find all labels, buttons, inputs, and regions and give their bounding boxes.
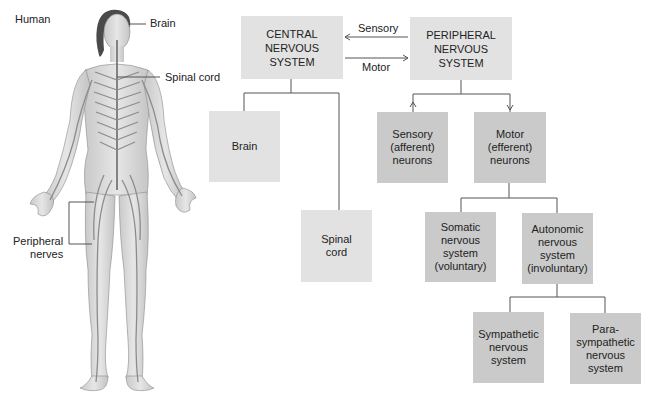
pns-line2: NERVOUS — [426, 42, 496, 56]
sympathetic-line3: system — [478, 354, 539, 367]
pns-line1: PERIPHERAL — [426, 28, 496, 42]
pns-line3: SYSTEM — [426, 56, 496, 70]
somatic-line1: Somatic — [435, 221, 487, 234]
sympathetic-line1: Sympathetic — [478, 328, 539, 341]
autonomic-nervous-system-box: Autonomic nervous system (involuntary) — [522, 213, 593, 284]
spinal-line2: cord — [321, 246, 352, 259]
cns-line1: CENTRAL — [265, 27, 319, 41]
parasympathetic-line2: sympathetic — [576, 336, 635, 349]
peripheral-nervous-system-box: PERIPHERAL NERVOUS SYSTEM — [410, 17, 512, 80]
cns-line3: SYSTEM — [265, 55, 319, 69]
sensory-line3: neurons — [390, 154, 434, 167]
somatic-line4: (voluntary) — [435, 260, 487, 273]
brain-box: Brain — [209, 111, 280, 182]
autonomic-line4: (involuntary) — [527, 262, 588, 275]
autonomic-line3: system — [527, 249, 588, 262]
somatic-line2: nervous — [435, 234, 487, 247]
motor-efferent-neurons-box: Motor (efferent) neurons — [474, 112, 546, 183]
autonomic-line2: nervous — [527, 236, 588, 249]
motor-line3: neurons — [488, 154, 532, 167]
autonomic-line1: Autonomic — [527, 223, 588, 236]
sympathetic-nervous-system-box: Sympathetic nervous system — [473, 312, 544, 383]
motor-line1: Motor — [488, 128, 532, 141]
spinal-line1: Spinal — [321, 233, 352, 246]
sensory-arrow-label: Sensory — [358, 22, 398, 35]
parasympathetic-nervous-system-box: Para- sympathetic nervous system — [570, 313, 641, 384]
sensory-afferent-neurons-box: Sensory (afferent) neurons — [377, 112, 448, 183]
motor-line2: (efferent) — [488, 141, 532, 154]
sensory-line1: Sensory — [390, 128, 434, 141]
parasympathetic-line4: system — [576, 362, 635, 375]
cns-line2: NERVOUS — [265, 41, 319, 55]
spinal-cord-box: Spinal cord — [301, 210, 372, 282]
motor-arrow-label: Motor — [362, 61, 390, 74]
parasympathetic-line1: Para- — [576, 323, 635, 336]
central-nervous-system-box: CENTRAL NERVOUS SYSTEM — [241, 16, 343, 79]
sensory-line2: (afferent) — [390, 141, 434, 154]
somatic-line3: system — [435, 247, 487, 260]
parasympathetic-line3: nervous — [576, 349, 635, 362]
brain-box-label: Brain — [232, 140, 258, 153]
sympathetic-line2: nervous — [478, 341, 539, 354]
somatic-nervous-system-box: Somatic nervous system (voluntary) — [425, 212, 496, 282]
